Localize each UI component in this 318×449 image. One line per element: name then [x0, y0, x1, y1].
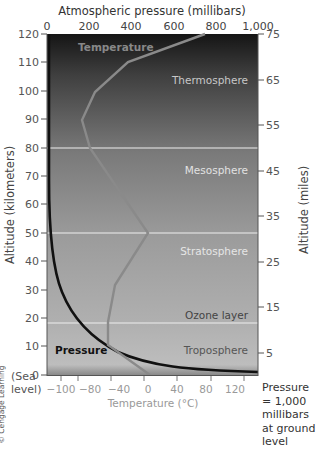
svg-text:−80: −80 — [79, 383, 101, 395]
right-tick-labels: 75 65 55 45 35 25 15 5 — [266, 28, 280, 360]
layer-thermosphere: Thermosphere — [171, 74, 248, 86]
svg-text:65: 65 — [266, 74, 280, 87]
layer-ozone: Ozone layer — [185, 309, 249, 321]
layer-troposphere: Troposphere — [183, 344, 248, 356]
sea-level-line1: (Sea — [11, 370, 41, 383]
svg-text:60: 60 — [25, 198, 39, 211]
svg-text:80: 80 — [199, 383, 212, 395]
svg-text:70: 70 — [25, 170, 39, 183]
svg-text:25: 25 — [266, 256, 280, 269]
right-axis-title: Altitude (miles) — [297, 166, 311, 254]
sea-level-label: (Sea level) — [11, 370, 41, 396]
copyright-credit: © Cengage Learning — [0, 365, 6, 443]
left-tick-labels: 120 110 100 90 80 70 60 50 40 30 20 10 0 — [18, 28, 39, 382]
svg-text:0: 0 — [44, 20, 51, 33]
svg-text:5: 5 — [266, 347, 273, 360]
layer-mesosphere: Mesosphere — [185, 164, 248, 176]
right-ticks — [258, 34, 264, 353]
svg-text:400: 400 — [121, 20, 142, 33]
svg-text:800: 800 — [206, 20, 227, 33]
pressure-note: Pressure = 1,000 millibars at ground lev… — [262, 381, 318, 449]
top-axis-title: Atmospheric pressure (millibars) — [58, 4, 245, 18]
bottom-ticks — [61, 376, 244, 381]
svg-text:30: 30 — [25, 284, 39, 297]
svg-text:120: 120 — [18, 28, 39, 41]
top-tick-labels: 0 200 400 600 800 1,000 — [44, 20, 274, 33]
svg-text:40: 40 — [25, 255, 39, 268]
bottom-axis-title: Temperature (°C) — [107, 397, 199, 409]
svg-text:50: 50 — [25, 227, 39, 240]
svg-text:200: 200 — [79, 20, 100, 33]
svg-text:90: 90 — [25, 113, 39, 126]
left-axis-title: Altitude (kilometers) — [3, 146, 17, 264]
svg-text:600: 600 — [164, 20, 185, 33]
svg-text:10: 10 — [25, 340, 39, 353]
temperature-series-label: Temperature — [78, 41, 154, 53]
bottom-tick-labels: −100 −80 −40 0 40 80 120 — [47, 383, 245, 395]
sea-level-line2: level) — [11, 383, 41, 396]
svg-text:0: 0 — [145, 383, 152, 395]
svg-text:120: 120 — [225, 383, 245, 395]
pressure-series-label: Pressure — [55, 344, 107, 356]
svg-text:40: 40 — [170, 383, 183, 395]
svg-text:80: 80 — [25, 142, 39, 155]
svg-text:−40: −40 — [108, 383, 130, 395]
svg-text:15: 15 — [266, 301, 280, 314]
left-ticks — [41, 34, 47, 375]
svg-text:−100: −100 — [47, 383, 76, 395]
svg-text:1,000: 1,000 — [242, 20, 274, 33]
svg-text:35: 35 — [266, 210, 280, 223]
layer-stratosphere: Stratosphere — [180, 245, 248, 257]
svg-text:100: 100 — [18, 85, 39, 98]
svg-text:55: 55 — [266, 119, 280, 132]
svg-text:45: 45 — [266, 165, 280, 178]
svg-text:110: 110 — [18, 56, 39, 69]
svg-text:20: 20 — [25, 312, 39, 325]
